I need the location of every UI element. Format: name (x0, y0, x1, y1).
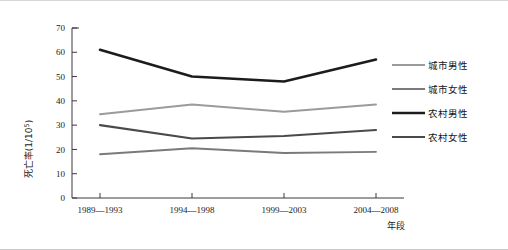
y-tick-label-10: 10 (56, 169, 66, 179)
y-axis-title: 死亡率(1/105) (23, 120, 34, 178)
y-tick-label-50: 50 (56, 72, 66, 82)
x-axis-ticks (100, 193, 376, 198)
chart-series-group (100, 50, 376, 154)
series-line-2 (100, 50, 376, 82)
y-tick-label-0: 0 (61, 193, 66, 203)
x-tick-label-0: 1989—1993 (78, 205, 124, 215)
y-axis-ticks (72, 28, 77, 198)
y-tick-label-30: 30 (56, 120, 66, 130)
y-axis-tick-labels: 010203040506070 (56, 23, 66, 203)
line-chart-svg: 010203040506070 1989—19931994—19981999—2… (0, 1, 508, 250)
legend-label-1: 城市女性 (428, 84, 468, 95)
chart-legend: 城市男性城市女性农村男性农村女性 (392, 60, 468, 143)
legend-label-0: 城市男性 (428, 60, 468, 71)
x-tick-label-3: 2004—2008 (354, 205, 400, 215)
chart-axes (72, 28, 404, 198)
x-axis-title: 年段 (387, 220, 405, 231)
x-tick-label-1: 1994—1998 (170, 205, 216, 215)
legend-label-3: 农村女性 (428, 132, 468, 143)
series-line-0 (100, 105, 376, 115)
svg-text:死亡率(1/105): 死亡率(1/105) (23, 120, 34, 178)
series-line-1 (100, 148, 376, 154)
y-tick-label-70: 70 (56, 23, 66, 33)
chart-figure: 010203040506070 1989—19931994—19981999—2… (0, 0, 508, 250)
y-tick-label-40: 40 (56, 96, 66, 106)
legend-label-2: 农村男性 (428, 108, 468, 119)
x-tick-label-2: 1999—2003 (262, 205, 308, 215)
y-tick-label-60: 60 (56, 47, 66, 57)
y-tick-label-20: 20 (56, 145, 66, 155)
x-axis-category-labels: 1989—19931994—19981999—20032004—2008 (78, 205, 400, 215)
series-line-3 (100, 125, 376, 138)
